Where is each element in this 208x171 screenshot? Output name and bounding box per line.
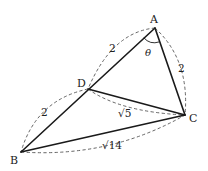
segment-DC bbox=[88, 89, 185, 115]
length-DB: 2 bbox=[41, 106, 48, 118]
label-D: D bbox=[77, 77, 86, 90]
segment-AB bbox=[21, 28, 155, 152]
triangle-diagram: A B C D θ 2 2 2 √5 √14 bbox=[0, 0, 208, 171]
length-BC: √14 bbox=[102, 139, 122, 151]
angle-arc-A bbox=[144, 38, 159, 43]
length-DC: √5 bbox=[118, 107, 131, 119]
length-AC: 2 bbox=[178, 62, 185, 74]
label-A: A bbox=[149, 13, 159, 26]
label-B: B bbox=[10, 154, 18, 167]
label-theta: θ bbox=[145, 47, 151, 58]
label-C: C bbox=[189, 112, 197, 125]
length-AD: 2 bbox=[109, 42, 116, 54]
